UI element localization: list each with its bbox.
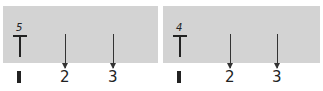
tee-symbol-icon: [13, 35, 27, 57]
down-arrow-icon: [65, 34, 66, 68]
tee-symbol-icon: [173, 35, 187, 57]
down-arrow-icon: [113, 34, 114, 68]
arrow-label: 3: [108, 68, 118, 86]
arrow-label: 3: [272, 68, 282, 86]
down-arrow-icon: [277, 34, 278, 68]
tee-superscript: 4: [176, 22, 182, 33]
arrow-label: 2: [60, 68, 70, 86]
down-arrow-icon: [230, 34, 231, 68]
bar-mark-icon: [17, 71, 21, 83]
arrow-label: 2: [225, 68, 235, 86]
tee-superscript: 5: [16, 22, 22, 33]
bar-mark-icon: [177, 71, 181, 83]
